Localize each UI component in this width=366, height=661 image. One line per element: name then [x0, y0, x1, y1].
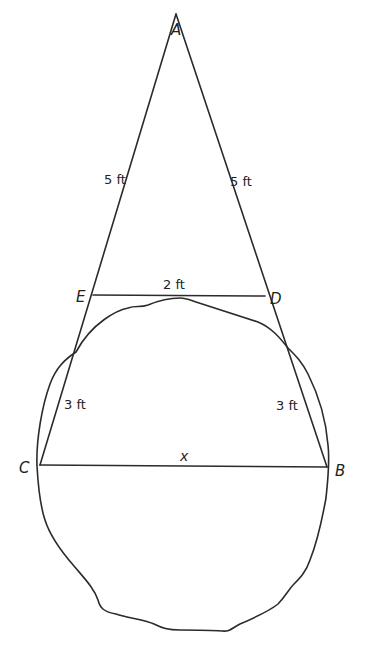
geometry-figure: A E D C B 5 ft 5 ft 2 ft 3 ft 3 ft x — [0, 0, 366, 661]
measure-label-DB: 3 ft — [276, 399, 298, 412]
measure-label-EC: 3 ft — [64, 398, 86, 411]
vertex-label-B: B — [335, 464, 345, 479]
vertex-label-A: A — [171, 23, 181, 38]
segment-ED — [93, 295, 265, 296]
segment-CB — [40, 465, 327, 467]
segment-AB — [176, 14, 327, 467]
figure-drawing — [0, 0, 366, 661]
segment-AC — [40, 14, 176, 465]
vertex-label-E: E — [76, 290, 85, 305]
vertex-label-C: C — [19, 461, 29, 476]
measure-label-ED: 2 ft — [163, 278, 185, 291]
vertex-label-D: D — [270, 292, 282, 307]
measure-label-AD: 5 ft — [230, 175, 252, 188]
measure-label-AE: 5 ft — [104, 173, 126, 186]
measure-label-CB: x — [180, 449, 188, 463]
